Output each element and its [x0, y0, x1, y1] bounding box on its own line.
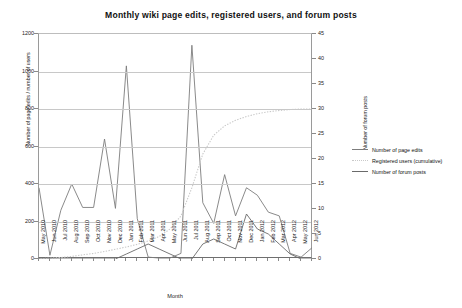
y-axis-right-tickmark: [312, 258, 316, 259]
x-axis-tickmark: [267, 258, 268, 261]
y-axis-left-tickmark: [34, 183, 38, 184]
x-axis-tickmark: [60, 258, 61, 261]
x-axis-tick: Jul 2010: [62, 220, 68, 260]
x-axis-tick: Sep 2011: [215, 220, 221, 260]
x-axis-tickmark: [289, 258, 290, 261]
x-axis-tickmark: [147, 258, 148, 261]
y-axis-left-tick: 0: [0, 258, 34, 264]
x-axis-tickmark: [114, 258, 115, 261]
x-axis-tick: Aug 2010: [73, 220, 79, 260]
x-axis-tickmark: [158, 258, 159, 261]
y-axis-right-tickmark: [312, 108, 316, 109]
y-axis-left-tickmark: [34, 108, 38, 109]
y-axis-right-tickmark: [312, 158, 316, 159]
y-axis-right-tick: 40: [318, 58, 338, 64]
x-axis-tick: Mar 2011: [149, 220, 155, 260]
y-axis-left-tick: 200: [0, 221, 34, 227]
y-axis-right-tick: 25: [318, 133, 338, 139]
x-axis-tick: Feb 2012: [270, 220, 276, 260]
x-axis-tickmark: [191, 258, 192, 261]
x-axis-tickmark: [49, 258, 50, 261]
legend-swatch: [352, 171, 368, 172]
legend-label: Registered users (cumulative): [372, 158, 442, 164]
y-axis-left-tick: 400: [0, 183, 34, 189]
y-axis-left-tickmark: [34, 33, 38, 34]
y-axis-left-tickmark: [34, 146, 38, 147]
y-axis-left-tick: 1200: [0, 33, 34, 39]
y-axis-left-tick: 600: [0, 146, 34, 152]
x-axis-tick: Sep 2010: [84, 220, 90, 260]
x-axis-title: Month: [38, 293, 312, 299]
x-axis-tickmark: [300, 258, 301, 261]
chart-title: Monthly wiki page edits, registered user…: [0, 10, 462, 20]
y-axis-right-tick: 35: [318, 83, 338, 89]
gridline: [39, 72, 311, 73]
y-axis-right-tickmark: [312, 83, 316, 84]
x-axis-tick: Jun 2010: [51, 220, 57, 260]
x-axis-tickmark: [125, 258, 126, 261]
chart-container: Monthly wiki page edits, registered user…: [0, 0, 462, 308]
gridline: [39, 147, 311, 148]
x-axis-tick: May 2010: [40, 220, 46, 260]
x-axis-tickmark: [136, 258, 137, 261]
x-axis-tick: Oct 2010: [95, 220, 101, 260]
x-axis-tickmark: [256, 258, 257, 261]
gridline: [39, 109, 311, 110]
x-axis-tickmark: [202, 258, 203, 261]
x-axis-tick: Feb 2011: [138, 220, 144, 260]
x-axis-tickmark: [180, 258, 181, 261]
x-axis-tickmark: [169, 258, 170, 261]
y-axis-right-tickmark: [312, 33, 316, 34]
legend-item[interactable]: Number of forum posts: [352, 166, 460, 177]
x-axis-tickmark: [93, 258, 94, 261]
gridline: [39, 184, 311, 185]
x-axis-tickmark: [213, 258, 214, 261]
y-axis-right-tickmark: [312, 208, 316, 209]
x-axis-tickmark: [224, 258, 225, 261]
x-axis-tick: Jul 2011: [193, 220, 199, 260]
legend-label: Number of page edits: [372, 147, 423, 153]
y-axis-right-tickmark: [312, 233, 316, 234]
x-axis-tickmark: [311, 258, 312, 261]
legend-item[interactable]: Number of page edits: [352, 144, 460, 155]
x-axis-tickmark: [245, 258, 246, 261]
y-axis-right-tick: 10: [318, 208, 338, 214]
legend-label: Number of forum posts: [372, 169, 426, 175]
x-axis-tickmark: [278, 258, 279, 261]
y-axis-left-tickmark: [34, 221, 38, 222]
x-axis-tick: Jun 2012: [313, 220, 319, 260]
legend-swatch: [352, 149, 368, 150]
y-axis-right-tickmark: [312, 133, 316, 134]
x-axis-tickmark: [104, 258, 105, 261]
x-axis-tick: Apr 2011: [160, 220, 166, 260]
x-axis-tick: May 2011: [171, 220, 177, 260]
x-axis-tick: Aug 2011: [204, 220, 210, 260]
y-axis-right-tickmark: [312, 58, 316, 59]
x-axis-tickmark: [71, 258, 72, 261]
y-axis-right-tick: 5: [318, 233, 338, 239]
x-axis-tick: Nov 2010: [106, 220, 112, 260]
y-axis-right-tick: 30: [318, 108, 338, 114]
legend-item[interactable]: Registered users (cumulative): [352, 155, 460, 166]
y-axis-right-tick: 20: [318, 158, 338, 164]
x-axis-tick: Jun 2011: [182, 220, 188, 260]
x-axis-tick: Dec 2010: [117, 220, 123, 260]
y-axis-right-tickmark: [312, 183, 316, 184]
y-axis-left-tickmark: [34, 71, 38, 72]
chart-legend: Number of page editsRegistered users (cu…: [352, 144, 460, 177]
x-axis-tick: Oct 2011: [226, 220, 232, 260]
y-axis-left-tick: 1000: [0, 71, 34, 77]
x-axis-tick: May 2012: [302, 220, 308, 260]
x-axis-tick: Nov 2011: [237, 220, 243, 260]
x-axis-tick: Mar 2012: [280, 220, 286, 260]
x-axis-tickmark: [38, 258, 39, 261]
x-axis-tick: Jan 2011: [128, 220, 134, 260]
x-axis-tickmark: [82, 258, 83, 261]
x-axis-tick: Dec 2011: [248, 220, 254, 260]
legend-swatch: [352, 160, 368, 161]
x-axis-tick: Apr 2012: [291, 220, 297, 260]
y-axis-right-tick: 15: [318, 183, 338, 189]
y-axis-right-tick: 0: [318, 258, 338, 264]
y-axis-left-tick: 800: [0, 108, 34, 114]
x-axis-tick: Jan 2012: [259, 220, 265, 260]
